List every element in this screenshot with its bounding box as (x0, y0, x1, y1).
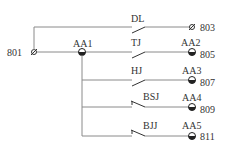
terminal-803-label: 803 (200, 22, 215, 33)
circuit-diagram: 801 DL 803 AA1 TJ AA2 805 HJ AA3 807 (0, 0, 228, 150)
terminal-811-label: 811 (200, 131, 215, 142)
terminal-805-label: 805 (200, 49, 215, 60)
terminal-809-label: 809 (200, 104, 215, 115)
node-aa1-icon (79, 49, 86, 56)
terminal-801-label: 801 (7, 47, 22, 58)
aa3-label: AA3 (182, 65, 201, 76)
node-aa3-icon (189, 77, 196, 84)
dl-label: DL (131, 13, 144, 24)
dl-switch-icon (132, 27, 145, 33)
bsj-label: BSJ (143, 91, 159, 102)
terminal-803-icon (189, 24, 195, 30)
aa5-label: AA5 (182, 120, 201, 131)
tj-label: TJ (131, 37, 141, 48)
hj-label: HJ (131, 65, 142, 76)
tj-switch-icon (132, 52, 145, 58)
hj-switch-icon (132, 80, 145, 86)
node-aa4-icon (189, 104, 196, 111)
aa4-label: AA4 (182, 92, 201, 103)
terminal-807-label: 807 (200, 77, 215, 88)
node-aa5-icon (189, 133, 196, 140)
bjj-label: BJJ (143, 120, 158, 131)
node-aa2-icon (189, 49, 196, 56)
aa2-label: AA2 (181, 37, 200, 48)
aa1-label: AA1 (73, 38, 92, 49)
